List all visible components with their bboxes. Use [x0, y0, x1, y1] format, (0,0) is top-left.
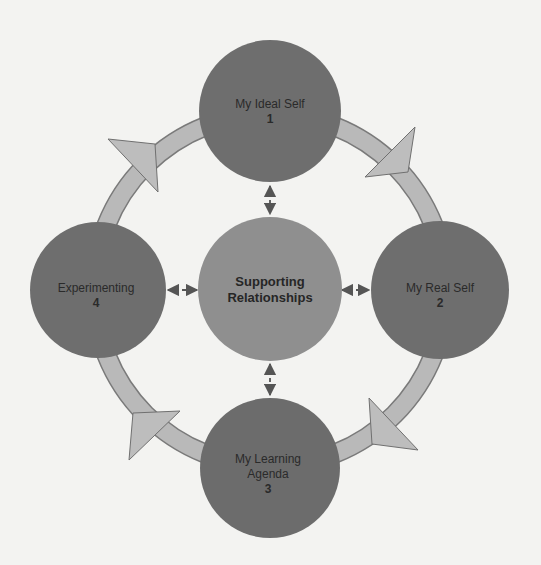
stage-label-real-self: My Real Self 2 — [406, 281, 474, 311]
stage-title: My Ideal Self — [235, 97, 304, 111]
stage-title: Experimenting — [58, 281, 135, 295]
stage-title-line1: My Learning — [235, 452, 301, 467]
stage-number: 3 — [235, 482, 301, 497]
stage-number: 2 — [406, 296, 474, 311]
stage-title: My Real Self — [406, 281, 474, 295]
stage-label-ideal-self: My Ideal Self 1 — [235, 97, 304, 127]
center-label-line2: Relationships — [227, 290, 312, 306]
center-label: Supporting Relationships — [227, 274, 312, 306]
stage-title-line2: Agenda — [235, 467, 301, 482]
stage-number: 1 — [235, 112, 304, 127]
stage-label-experimenting: Experimenting 4 — [58, 281, 135, 311]
stage-label-learning-agenda: My Learning Agenda 3 — [235, 452, 301, 497]
center-label-line1: Supporting — [227, 274, 312, 290]
stage-number: 4 — [58, 296, 135, 311]
